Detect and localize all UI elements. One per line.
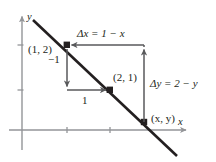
slope-diagram-figure: y x (1, 2) (2, 1) (x, y) −1 1 Δx = 1 − x… [0,0,216,162]
delta-x-label: Δx = 1 − x [77,28,125,39]
rise-label: −1 [48,54,60,65]
x-axis-label: x [178,117,183,128]
run-label: 1 [82,95,88,106]
delta-y-label: Δy = 2 − y [150,78,198,89]
delta-x-arrow [72,45,145,47]
y-axis-label: y [27,12,32,23]
point-marker-2-1 [107,87,113,93]
point-label-x-y: (x, y) [151,113,175,124]
point-label-2-1: (2, 1) [113,72,137,83]
point-marker-1-2 [64,42,70,48]
